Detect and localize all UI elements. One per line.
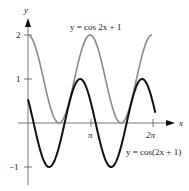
black-series-label: y = cos(2x + 1) (126, 147, 181, 157)
x-axis-arrow-icon (166, 120, 175, 126)
y-tick-label-1: 1 (16, 74, 21, 84)
chart: 2 1 −1 π 2π x y y = cos 2x + 1 y = cos(2… (0, 0, 189, 191)
y-tick-label-2: 2 (16, 30, 21, 40)
x-tick-label-pi: π (88, 130, 93, 140)
x-axis-label: x (178, 118, 183, 128)
y-axis-arrow-icon (25, 18, 31, 27)
y-axis-label: y (23, 5, 28, 15)
series-cos2x-plus-1 (28, 35, 152, 123)
x-tick-label-2pi: 2π (146, 130, 156, 140)
gray-series-label: y = cos 2x + 1 (70, 22, 121, 32)
y-tick-label-m1: −1 (9, 162, 19, 172)
